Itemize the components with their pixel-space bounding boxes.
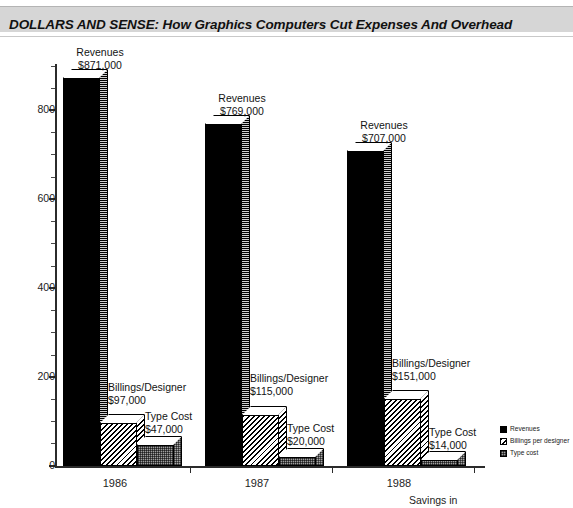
x-axis-label-1987: 1987: [227, 477, 287, 489]
annotation-revenues-1986: Revenues $871,000: [45, 46, 155, 71]
bar-front: [384, 399, 421, 466]
title-banner: DOLLARS AND SENSE: How Graphics Computer…: [0, 6, 573, 32]
bar-front: [137, 445, 174, 466]
y-minor-tick: [51, 221, 55, 222]
annotation-typecost-1987: Type Cost $20,000: [287, 422, 334, 447]
y-minor-tick: [51, 310, 55, 311]
legend-item-typecost: Type cost: [500, 448, 573, 458]
bar-billings-1988: [384, 399, 428, 466]
legend-item-revenues: Revenues: [500, 424, 573, 434]
y-tick-label: 200: [13, 370, 55, 382]
annotation-billings-1987: Billings/Designer $115,000: [250, 372, 328, 397]
y-minor-tick: [51, 332, 55, 333]
bar-front: [347, 151, 384, 466]
y-minor-tick: [51, 443, 55, 444]
chart-page: DOLLARS AND SENSE: How Graphics Computer…: [0, 0, 573, 508]
bar-typecost-1987: [279, 457, 323, 466]
y-minor-tick: [51, 154, 55, 155]
y-tick-label: 0: [13, 459, 55, 471]
annotation-revenues-1987: Revenues $769,000: [187, 92, 297, 117]
legend-label: Revenues: [510, 425, 540, 433]
chart-legend: Revenues Billings per designer Type cost: [500, 424, 573, 460]
legend-swatch-revenues-icon: [500, 426, 507, 433]
annotation-typecost-1988: Type Cost $14,000: [429, 426, 476, 451]
annotation-billings-1986: Billings/Designer $97,000: [108, 381, 186, 406]
y-minor-tick: [51, 177, 55, 178]
x-axis-label-1988: 1988: [369, 477, 429, 489]
legend-item-billings: Billings per designer: [500, 436, 573, 446]
legend-label: Billings per designer: [510, 437, 569, 445]
y-minor-tick: [51, 355, 55, 356]
y-tick-label: 600: [13, 192, 55, 204]
bar-side: [99, 69, 108, 466]
x-tick-1987: [332, 466, 333, 473]
legend-label: Type cost: [510, 449, 538, 457]
y-minor-tick: [51, 421, 55, 422]
annotation-revenues-1988: Revenues $707,000: [329, 119, 439, 144]
y-minor-tick: [51, 399, 55, 400]
bar-typecost-1986: [137, 445, 181, 466]
x-axis: [55, 466, 485, 468]
bar-front: [100, 423, 137, 466]
bar-front: [242, 415, 279, 466]
y-minor-tick: [51, 243, 55, 244]
bar-front: [421, 460, 458, 466]
annotation-typecost-1986: Type Cost $47,000: [145, 410, 192, 435]
annotation-billings-1988: Billings/Designer $151,000: [392, 357, 470, 382]
x-tick-1986: [190, 466, 191, 473]
x-axis-label-1986: 1986: [85, 477, 145, 489]
x-tick-1988: [474, 466, 475, 473]
bar-front: [205, 124, 242, 466]
y-tick-label: 400: [13, 281, 55, 293]
bar-chart: 0 200 400 600 800: [0, 40, 573, 480]
y-minor-tick: [51, 132, 55, 133]
footer-caption: Savings in: [409, 494, 457, 506]
legend-swatch-typecost-icon: [500, 450, 507, 457]
y-tick-label: 800: [13, 103, 55, 115]
y-minor-tick: [51, 266, 55, 267]
y-minor-tick: [51, 88, 55, 89]
title-divider: [0, 36, 573, 37]
bar-front: [279, 457, 316, 466]
y-axis: [55, 64, 57, 467]
bar-revenues-1986: [63, 78, 107, 466]
bar-front: [63, 78, 100, 466]
bar-typecost-1988: [421, 460, 465, 466]
legend-swatch-billings-icon: [500, 438, 507, 445]
page-title: DOLLARS AND SENSE: How Graphics Computer…: [9, 17, 512, 32]
